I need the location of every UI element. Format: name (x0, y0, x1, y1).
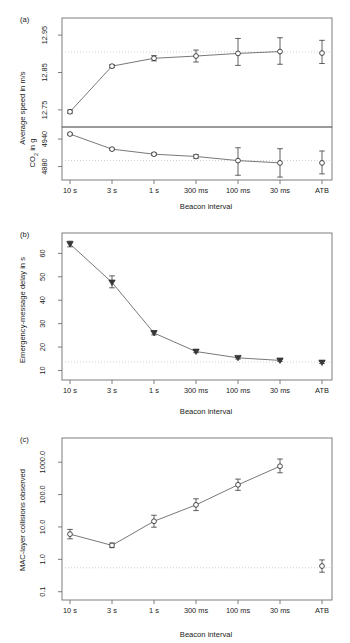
x-axis-tick-label: 3 s (107, 186, 117, 195)
panel-a: (a) Average speed in m/s CO2 in g 12.751… (0, 0, 350, 215)
panel-c-label: (c) (20, 435, 29, 444)
panel-a-x-axis-title: Beacon interval (180, 202, 233, 211)
panel-a-svg: (a) Average speed in m/s CO2 in g 12.751… (0, 0, 350, 215)
y-axis-tick-label: 10.0 (38, 520, 47, 534)
data-point-marker (236, 158, 241, 163)
data-point-marker (278, 49, 283, 54)
data-point-marker (152, 56, 157, 61)
panel-b-frame (62, 233, 332, 380)
figure-container: (a) Average speed in m/s CO2 in g 12.751… (0, 0, 350, 643)
x-axis-tick-label: 100 ms (226, 606, 251, 615)
panel-a-x-axis: 10 s3 s1 s300 ms100 ms30 msATB (63, 180, 329, 195)
panel-a-top-plot-area: 12.7512.8512.95 (40, 18, 332, 127)
x-axis-tick-label: 1 s (149, 606, 159, 615)
data-point-marker (236, 51, 241, 56)
y-axis-tick-label: 100.0 (38, 485, 47, 504)
series-line (70, 134, 280, 163)
y-axis-tick-label: 60 (38, 249, 47, 257)
y-axis-tick-label: 20 (38, 343, 47, 351)
panel-b-plot-area: 102030405060 (38, 233, 332, 380)
panel-c-plot-area: 0.11.010.0100.01000.0 (38, 438, 332, 600)
x-axis-tick-label: ATB (315, 186, 329, 195)
panel-c-x-axis-title: Beacon interval (180, 630, 233, 639)
y-axis-tick-label: 12.95 (40, 26, 49, 45)
panel-a-bottom-plot-area: 48804940 (40, 127, 332, 180)
y-axis-tick-label: 12.75 (40, 101, 49, 120)
y-axis-tick-label: 4940 (40, 131, 49, 147)
y-axis-tick-label: 30 (38, 320, 47, 328)
series-line (70, 466, 280, 545)
x-axis-tick-label: 30 ms (270, 606, 290, 615)
x-axis-tick-label: ATB (315, 606, 329, 615)
x-axis-tick-label: 300 ms (184, 186, 209, 195)
data-point-marker (320, 564, 325, 569)
panel-a-top-frame (62, 18, 332, 127)
data-point-marker (194, 54, 199, 59)
data-point-marker (194, 154, 199, 159)
data-point-marker (68, 532, 73, 537)
series-line (70, 52, 280, 112)
x-axis-tick-label: 300 ms (184, 386, 209, 395)
panel-b-x-axis-title: Beacon interval (180, 407, 233, 416)
data-point-marker (278, 464, 283, 469)
x-axis-tick-label: 1 s (149, 386, 159, 395)
x-axis-tick-label: 10 s (63, 386, 77, 395)
data-point-marker (236, 482, 241, 487)
x-axis-tick-label: 3 s (107, 606, 117, 615)
y-axis-tick-label: 40 (38, 296, 47, 304)
y-axis-tick-label: 50 (38, 273, 47, 281)
data-point-marker (110, 64, 115, 69)
data-point-marker (152, 519, 157, 524)
y-axis-tick-label: 1000.0 (38, 451, 47, 474)
panel-c-frame (62, 438, 332, 600)
panel-a-co2-axis-title: CO2 in g (28, 139, 39, 168)
x-axis-tick-label: 3 s (107, 386, 117, 395)
x-axis-tick-label: 30 ms (270, 186, 290, 195)
panel-a-label: (a) (20, 15, 30, 24)
data-point-marker (320, 160, 325, 165)
panel-c: (c) MAC-layer collisions observed 0.11.0… (0, 420, 350, 643)
panel-c-y-axis-title: MAC-layer collisions observed (18, 469, 27, 571)
series-line (70, 244, 280, 360)
x-axis-tick-label: 10 s (63, 186, 77, 195)
data-point-marker (68, 132, 73, 137)
panel-a-bottom-frame (62, 127, 332, 180)
y-axis-tick-label: 1.0 (38, 554, 47, 564)
data-point-marker (110, 543, 115, 548)
x-axis-tick-label: 100 ms (226, 186, 251, 195)
y-axis-tick-label: 0.1 (38, 587, 47, 597)
data-point-marker (68, 109, 73, 114)
data-point-marker (110, 147, 115, 152)
x-axis-tick-label: ATB (315, 386, 329, 395)
y-axis-tick-label: 12.85 (40, 63, 49, 82)
data-point-marker (152, 152, 157, 157)
panel-b-svg: (b) Emergency-message delay in s 1020304… (0, 215, 350, 420)
panel-c-x-axis: 10 s3 s1 s300 ms100 ms30 msATB (63, 600, 329, 615)
y-axis-tick-label: 10 (38, 366, 47, 374)
x-axis-tick-label: 300 ms (184, 606, 209, 615)
data-point-marker (278, 160, 283, 165)
x-axis-tick-label: 30 ms (270, 386, 290, 395)
panel-b: (b) Emergency-message delay in s 1020304… (0, 215, 350, 420)
panel-b-y-axis-title: Emergency-message delay in s (18, 257, 27, 363)
panel-b-x-axis: 10 s3 s1 s300 ms100 ms30 msATB (63, 380, 329, 395)
panel-c-svg: (c) MAC-layer collisions observed 0.11.0… (0, 420, 350, 643)
x-axis-tick-label: 10 s (63, 606, 77, 615)
x-axis-tick-label: 1 s (149, 186, 159, 195)
data-point-marker (277, 358, 283, 363)
data-point-marker (319, 360, 325, 365)
panel-a-speed-axis-title: Average speed in m/s (18, 71, 27, 145)
data-point-marker (320, 51, 325, 56)
y-axis-tick-label: 4880 (40, 158, 49, 174)
x-axis-tick-label: 100 ms (226, 386, 251, 395)
data-point-marker (194, 502, 199, 507)
panel-b-label: (b) (20, 230, 30, 239)
